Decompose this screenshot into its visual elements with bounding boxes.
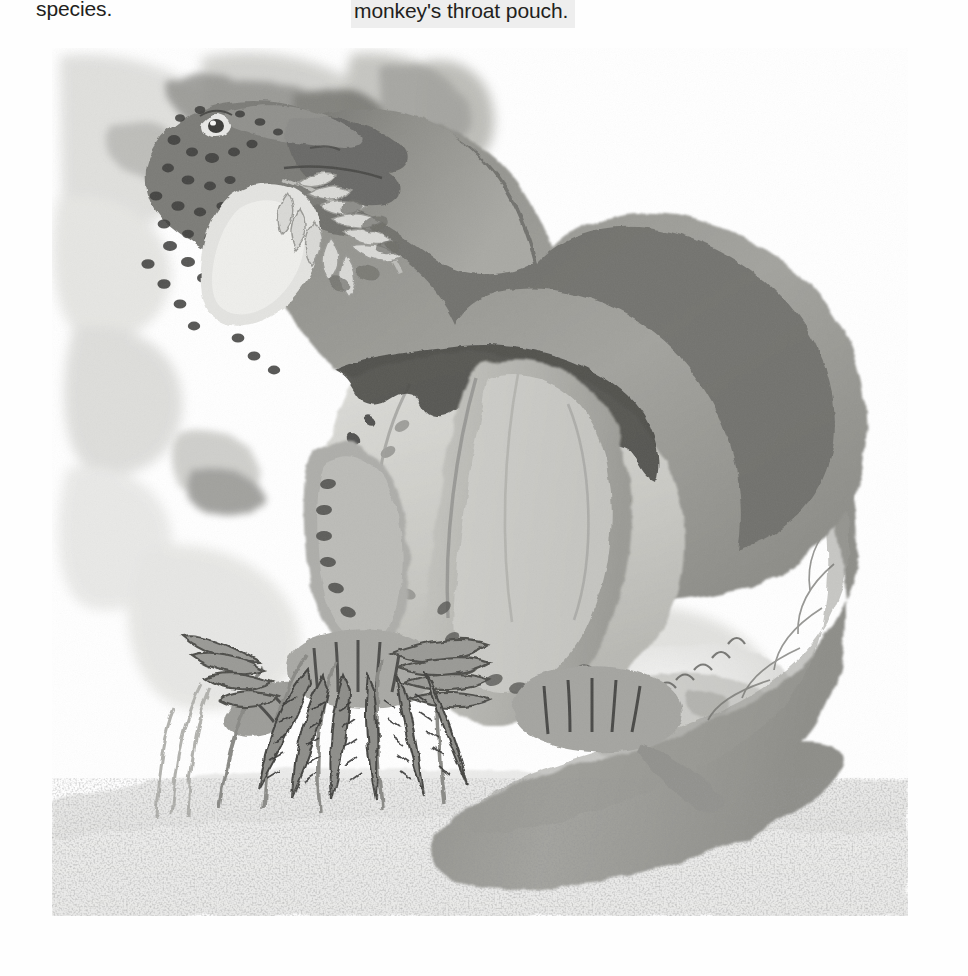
body-text-column-right-highlighted: monkey's throat pouch. [352, 0, 574, 27]
dinosaur-watercolor-illustration [52, 48, 908, 916]
body-text-column-left: species. [36, 0, 112, 22]
book-page: species. monkey's throat pouch. [0, 0, 968, 976]
